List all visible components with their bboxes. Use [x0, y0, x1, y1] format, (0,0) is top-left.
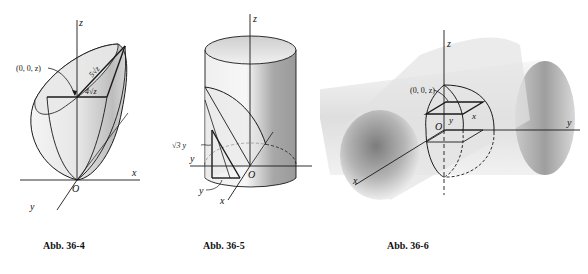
point-label: (0, 0, z) — [410, 86, 435, 95]
origin-label: O — [435, 121, 442, 132]
caption-36-6: Abb. 36-6 — [387, 240, 429, 251]
x-axis-label: x — [131, 167, 137, 178]
base-label: y — [198, 185, 204, 196]
square-y-label: y — [448, 115, 453, 125]
figure-36-4: z x y O (0, 0, z) 5√z 4√z Abb. 36-4 — [0, 0, 160, 274]
z-axis-label: z — [252, 13, 257, 24]
cylinder-diagram: z y x O √3 y y — [160, 0, 320, 230]
caption-36-4: Abb. 36-4 — [43, 240, 85, 251]
caption-36-5: Abb. 36-5 — [203, 240, 245, 251]
point-label: (0, 0, z) — [16, 64, 41, 73]
figure-36-6: z y x O (0, 0, z) x y Abb. 36-6 — [320, 0, 588, 274]
z-axis-label: z — [446, 38, 451, 49]
short-segment-label: 4√z — [85, 87, 97, 96]
cylinder-x-end — [340, 110, 420, 200]
y-axis-label: y — [189, 153, 195, 164]
height-label: √3 y — [172, 141, 186, 150]
x-axis-label: x — [352, 175, 358, 186]
y-axis-label: y — [29, 201, 35, 212]
intersecting-cylinders-diagram: z y x O (0, 0, z) x y — [320, 0, 588, 230]
z-axis-label: z — [78, 17, 83, 28]
cylinder-top — [205, 36, 296, 64]
square-x-label: x — [471, 111, 476, 121]
origin-label: O — [248, 169, 255, 180]
paraboloid-diagram: z x y O (0, 0, z) 5√z 4√z — [0, 0, 160, 230]
figure-36-5: z y x O √3 y y Abb. 36-5 — [160, 0, 320, 274]
x-axis-label: x — [219, 195, 225, 206]
origin-label: O — [72, 183, 79, 194]
y-axis-label: y — [566, 117, 572, 128]
